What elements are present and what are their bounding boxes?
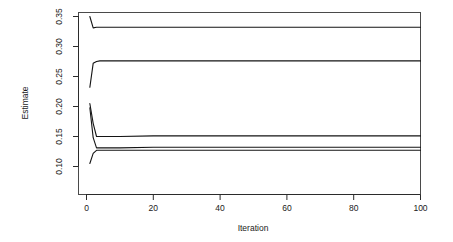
y-tick-label-0.10: 0.10 xyxy=(54,158,64,175)
trace-plot-svg: 0.35 0.30 0.25 0.20 0.15 0.10 0 20 40 60… xyxy=(0,0,453,242)
x-tick-label-0: 0 xyxy=(84,203,89,213)
y-tick-label-0.15: 0.15 xyxy=(54,128,64,145)
y-tick-label-0.35: 0.35 xyxy=(54,8,64,25)
x-tick-label-60: 60 xyxy=(282,203,292,213)
chart-figure: 0.35 0.30 0.25 0.20 0.15 0.10 0 20 40 60… xyxy=(0,0,453,242)
y-tick-label-0.30: 0.30 xyxy=(54,38,64,55)
x-tick-label-100: 100 xyxy=(413,203,427,213)
x-tick-label-40: 40 xyxy=(215,203,225,213)
y-axis-title: Estimate xyxy=(20,86,30,119)
x-axis-title: Iteration xyxy=(238,223,269,233)
y-tick-label-0.25: 0.25 xyxy=(54,68,64,85)
x-tick-label-80: 80 xyxy=(349,203,359,213)
x-tick-label-20: 20 xyxy=(149,203,159,213)
y-tick-label-0.20: 0.20 xyxy=(54,98,64,115)
plot-background xyxy=(0,0,453,242)
